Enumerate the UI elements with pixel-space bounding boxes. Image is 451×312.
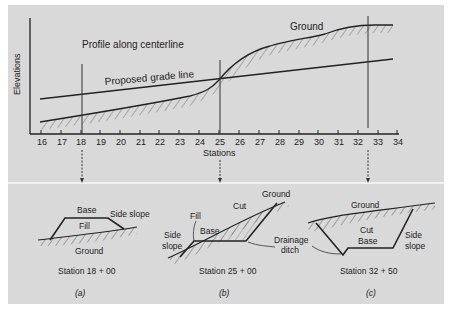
slope-label-c: slope — [405, 241, 426, 251]
side-slope-label-a: Side slope — [110, 209, 150, 219]
svg-text:26: 26 — [235, 137, 245, 147]
svg-text:21: 21 — [136, 137, 146, 147]
svg-text:22: 22 — [155, 137, 165, 147]
station-caption-a: Station 18 + 00 — [58, 266, 116, 276]
ground-label: Ground — [290, 21, 323, 32]
svg-text:33: 33 — [373, 137, 383, 147]
base-label-a: Base — [77, 205, 97, 215]
svg-text:18: 18 — [76, 137, 86, 147]
svg-text:28: 28 — [275, 137, 285, 147]
base-label-b: Base — [200, 226, 220, 236]
profile-title: Profile along centerline — [82, 39, 184, 50]
ditch-label-b: ditch — [281, 245, 299, 255]
drainage-label-b: Drainage — [274, 235, 309, 245]
svg-text:16: 16 — [37, 137, 47, 147]
svg-text:27: 27 — [255, 137, 265, 147]
cut-label-c: Cut — [360, 225, 374, 235]
earthwork-profile-figure: Elevations Profile along centerline 16 1… — [0, 0, 451, 312]
svg-text:20: 20 — [116, 137, 126, 147]
svg-text:23: 23 — [175, 137, 185, 147]
figure-caption-b: (b) — [219, 288, 230, 298]
svg-text:17: 17 — [57, 137, 67, 147]
cut-label-b: Cut — [233, 201, 247, 211]
svg-text:25: 25 — [215, 137, 225, 147]
svg-text:24: 24 — [195, 137, 205, 147]
svg-text:30: 30 — [314, 137, 324, 147]
y-axis-label: Elevations — [12, 53, 22, 95]
svg-text:32: 32 — [353, 137, 363, 147]
ground-label-b: Ground — [262, 189, 291, 199]
fill-label-a: Fill — [79, 221, 90, 231]
svg-text:31: 31 — [334, 137, 344, 147]
svg-text:29: 29 — [294, 137, 304, 147]
x-axis-label: Stations — [203, 148, 236, 158]
side-label-c: Side — [405, 230, 422, 240]
station-caption-b: Station 25 + 00 — [199, 266, 257, 276]
ground-label-a: Ground — [75, 246, 104, 256]
figure-caption-a: (a) — [75, 288, 86, 298]
fill-label-b: Fill — [190, 211, 201, 221]
side-label-b: Side — [164, 230, 181, 240]
figure-caption-c: (c) — [366, 288, 376, 298]
svg-text:19: 19 — [96, 137, 106, 147]
ground-label-c: Ground — [351, 200, 380, 210]
slope-label-b: slope — [162, 241, 183, 251]
station-caption-c: Station 32 + 50 — [340, 266, 398, 276]
svg-text:34: 34 — [393, 137, 403, 147]
base-label-c: Base — [358, 236, 378, 246]
